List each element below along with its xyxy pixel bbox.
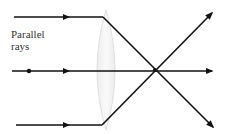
label-line-2: rays <box>11 40 45 52</box>
arrow-right-icon <box>63 14 70 20</box>
converging-lens <box>97 10 115 130</box>
point-marker <box>27 69 31 73</box>
arrow-right-icon <box>63 122 70 128</box>
lens-diagram: Parallel rays <box>0 0 228 134</box>
parallel-rays-label: Parallel rays <box>11 28 45 52</box>
focal-point <box>153 68 157 72</box>
label-line-1: Parallel <box>11 28 45 40</box>
diagram-canvas <box>0 0 228 134</box>
arrow-right-icon <box>63 68 70 74</box>
